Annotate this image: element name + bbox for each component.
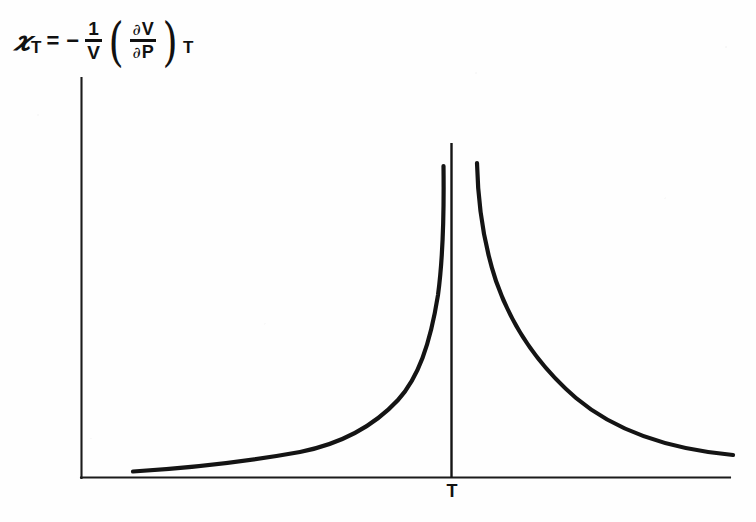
- plot-area: [0, 0, 756, 522]
- x-tick-label-critical-temperature: T: [444, 481, 460, 502]
- figure-container: 𝜘 T = − 1 V ( ∂V ∂P ) T: [0, 0, 756, 522]
- low-temperature-branch-curve: [133, 166, 444, 472]
- high-temperature-branch-curve: [477, 163, 733, 455]
